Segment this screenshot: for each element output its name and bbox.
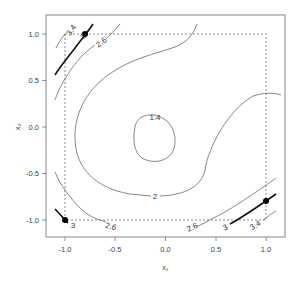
y-tick-label: -0.5 xyxy=(26,169,39,178)
x-tick-label: -1.0 xyxy=(59,245,72,254)
reference-square xyxy=(65,34,266,220)
x-tick-label: 0.0 xyxy=(160,245,170,254)
point xyxy=(82,31,88,37)
contour-2 xyxy=(75,24,281,196)
y-tick-label: 0.5 xyxy=(29,76,39,85)
x-tick-label: 1.0 xyxy=(261,245,271,254)
y-axis xyxy=(42,34,46,220)
contour-label: 1.4 xyxy=(149,113,161,122)
contour-label: 3.4 xyxy=(248,218,263,232)
point xyxy=(62,217,68,223)
y-tick-label: 1.0 xyxy=(29,30,39,39)
contour-3.4-top xyxy=(56,34,65,48)
contour-label: 2.6 xyxy=(94,35,109,49)
contour-label: 3.4 xyxy=(65,23,79,38)
y-axis-label: x₂ xyxy=(13,124,22,131)
x-axis-label: x₁ xyxy=(162,263,169,272)
contour-label: 2.6 xyxy=(104,221,118,233)
contour-plot: -1.0 -0.5 0.0 0.5 1.0 x₁ 1.0 0.5 0.0 -0.… xyxy=(0,0,300,284)
contour-label: 3 xyxy=(71,221,76,230)
contour-lines xyxy=(55,24,281,227)
contour-3-highlight xyxy=(55,24,276,224)
x-tick-label: 0.5 xyxy=(211,245,221,254)
contour-label: 3 xyxy=(221,222,229,232)
contour-3.4-bottom xyxy=(263,211,276,220)
x-axis xyxy=(46,237,285,241)
y-tick-label: -1.0 xyxy=(26,216,39,225)
y-tick-labels: 1.0 0.5 0.0 -0.5 -1.0 xyxy=(26,30,39,225)
contour-labels: 1.4 2 2.6 2.6 2.6 3 3 3 3.4 3.4 xyxy=(65,23,263,234)
x-tick-label: -0.5 xyxy=(109,245,122,254)
y-tick-label: 0.0 xyxy=(29,123,39,132)
contour-3-bottom-right xyxy=(230,194,276,224)
contour-label: 2 xyxy=(153,192,158,201)
contour-2.6-bottom-left xyxy=(55,172,106,222)
x-tick-labels: -1.0 -0.5 0.0 0.5 1.0 xyxy=(59,245,272,254)
contour-label: 2.6 xyxy=(185,221,199,234)
plot-frame xyxy=(46,15,285,237)
point xyxy=(263,198,269,204)
design-points xyxy=(62,31,269,223)
